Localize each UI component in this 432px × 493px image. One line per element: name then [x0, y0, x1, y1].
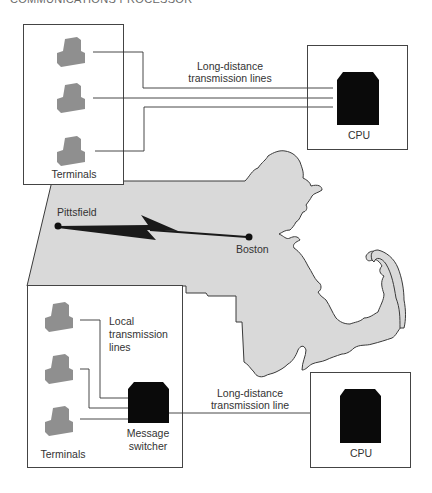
bottom-cpu-label: CPU [342, 447, 380, 459]
city-label-boston: Boston [236, 243, 269, 255]
city-label-pittsfield: Pittsfield [57, 206, 97, 218]
cpu-chip-icon [340, 389, 381, 443]
bottom-link-label-line2: transmission line [200, 399, 300, 411]
top-cpu-label: CPU [340, 129, 378, 141]
boston-dot [246, 234, 253, 241]
local-lines-label-line2: transmission [109, 328, 168, 340]
top-terminals-label: Terminals [48, 168, 100, 180]
local-lines-label-line1: Local [109, 315, 134, 327]
local-lines-label-line3: lines [109, 341, 131, 353]
cpu-chip-icon [337, 72, 379, 125]
bottom-link-label-line1: Long-distance [200, 387, 300, 399]
switcher-label-line1: Message [122, 427, 174, 439]
top-link-label-line2: transmission lines [170, 72, 290, 84]
pittsfield-dot [55, 223, 62, 230]
bottom-terminals-label: Terminals [37, 448, 89, 460]
message-switcher-icon [128, 382, 169, 423]
top-link-label-line1: Long-distance [170, 60, 290, 72]
switcher-label-line2: switcher [122, 440, 174, 452]
